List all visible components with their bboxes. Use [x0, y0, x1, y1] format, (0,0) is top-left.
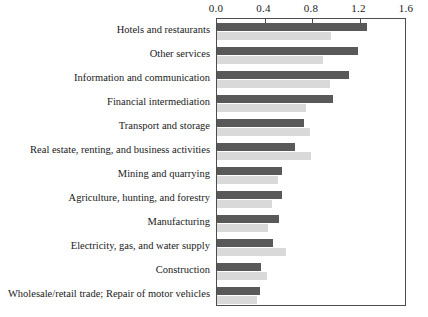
bar-series-dark — [217, 95, 333, 103]
bar-series-light — [217, 80, 330, 88]
bar-series-dark — [217, 143, 295, 151]
bar-series-dark — [217, 47, 358, 55]
y-axis-category-label: Agriculture, hunting, and forestry — [69, 192, 210, 204]
x-axis-tick-label: 0.4 — [256, 2, 270, 14]
bar-series-light — [217, 248, 286, 256]
y-axis-category-label: Transport and storage — [119, 120, 210, 132]
x-axis-tick-label: 0.8 — [304, 2, 318, 14]
y-axis-category-label: Information and communication — [74, 72, 210, 84]
bar-series-light — [217, 200, 272, 208]
y-axis-category-label: Wholesale/retail trade; Repair of motor … — [8, 288, 210, 300]
bar-series-light — [217, 128, 310, 136]
y-axis-category-label: Electricity, gas, and water supply — [71, 240, 210, 252]
bar-series-light — [217, 176, 278, 184]
plot-inner — [217, 19, 405, 305]
bar-chart: 0.00.40.81.21.6 Hotels and restaurantsOt… — [0, 0, 428, 317]
x-axis-tick-label: 1.2 — [351, 2, 365, 14]
bar-series-dark — [217, 167, 282, 175]
y-axis-category-label: Other services — [150, 48, 210, 60]
bar-series-light — [217, 32, 331, 40]
bar-series-light — [217, 152, 311, 160]
bar-series-dark — [217, 71, 349, 79]
bar-series-dark — [217, 23, 367, 31]
bar-series-light — [217, 56, 323, 64]
y-axis-category-label: Real estate, renting, and business activ… — [30, 144, 210, 156]
plot-area — [216, 18, 406, 306]
y-axis-category-label: Construction — [156, 264, 210, 276]
bar-series-dark — [217, 287, 260, 295]
x-axis-tick-label-row: 0.00.40.81.21.6 — [0, 0, 428, 18]
y-axis-category-label-column: Hotels and restaurantsOther servicesInfo… — [0, 18, 213, 306]
bar-series-dark — [217, 239, 273, 247]
y-axis-category-label: Hotels and restaurants — [117, 24, 210, 36]
bar-series-light — [217, 272, 267, 280]
bar-series-dark — [217, 263, 261, 271]
y-axis-category-label: Manufacturing — [148, 216, 210, 228]
bar-series-dark — [217, 191, 282, 199]
x-axis-tick-label: 1.6 — [399, 2, 413, 14]
y-axis-category-label: Financial intermediation — [107, 96, 210, 108]
bar-series-light — [217, 104, 306, 112]
bar-series-light — [217, 224, 268, 232]
bar-series-light — [217, 296, 257, 304]
bar-series-dark — [217, 215, 279, 223]
y-axis-category-label: Mining and quarrying — [118, 168, 210, 180]
x-axis-tick-label: 0.0 — [209, 2, 223, 14]
bar-series-dark — [217, 119, 304, 127]
